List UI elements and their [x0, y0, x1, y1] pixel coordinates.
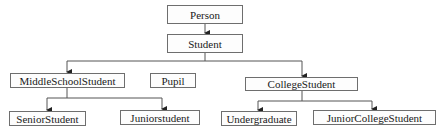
class-hierarchy-diagram: Person Student MiddleSchoolStudent Pupil…	[0, 0, 437, 134]
node-person: Person	[167, 5, 243, 24]
node-junior-college-student: JuniorCollegeStudent	[313, 110, 436, 125]
node-student: Student	[167, 34, 243, 53]
node-pupil: Pupil	[150, 73, 196, 88]
node-college-student: CollegeStudent	[245, 77, 358, 91]
node-undergraduate: Undergraduate	[221, 111, 297, 126]
node-middle-school-student: MiddleSchoolStudent	[10, 73, 125, 88]
node-junior-student: Juniorstudent	[120, 110, 200, 125]
node-senior-student: SeniorStudent	[9, 111, 86, 126]
